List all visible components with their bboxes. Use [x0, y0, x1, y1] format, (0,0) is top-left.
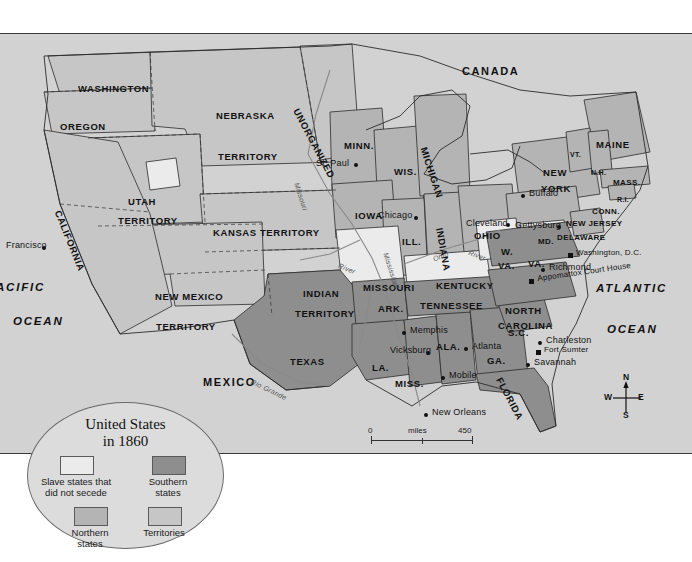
- city-label: Francisco: [6, 241, 47, 250]
- ocean-label: ATLANTIC: [596, 283, 667, 295]
- state-label: OREGON: [60, 122, 106, 132]
- map-geometry: [0, 34, 692, 453]
- state-label: MISSOURI: [363, 283, 415, 293]
- state-label: ARK.: [378, 304, 404, 314]
- state-label: W.: [501, 247, 513, 257]
- compass-arrows-icon: [604, 372, 650, 422]
- state-label: MISS.: [395, 379, 424, 389]
- city-label: Gettysburg: [515, 221, 561, 230]
- city-marker: [464, 347, 468, 351]
- state-label: DELAWARE: [557, 234, 606, 242]
- state-label: TERRITORY: [218, 152, 278, 162]
- legend-label-southern-states: Southern states: [120, 477, 216, 499]
- state-label: OHIO: [474, 231, 501, 241]
- city-marker: [424, 413, 428, 417]
- battle-site-marker: [529, 279, 534, 284]
- legend-label-slave-states: Slave states that did not secede: [28, 477, 124, 499]
- state-label: TENNESSEE: [420, 301, 483, 311]
- city-marker: [441, 376, 445, 380]
- legend-label-territories: Territories: [116, 528, 212, 539]
- state-label: TERRITORY: [118, 216, 178, 226]
- state-label: MASS.: [613, 179, 640, 187]
- city-label: Memphis: [410, 326, 448, 335]
- battle-site-marker: [568, 253, 573, 258]
- city-marker: [541, 268, 545, 272]
- state-label: NEW: [543, 168, 567, 178]
- state-label: UTAH: [128, 197, 156, 207]
- scale-km-max: 570: [460, 452, 473, 454]
- city-marker: [526, 363, 530, 367]
- state-label: KENTUCKY: [436, 281, 494, 291]
- city-marker: [414, 216, 418, 220]
- city-label: Mobile: [449, 371, 477, 380]
- scale-km-min: 0: [382, 452, 386, 454]
- legend-title-line2: in 1860: [28, 433, 223, 450]
- city-label: Savannah: [534, 358, 576, 367]
- state-label: VA.: [498, 261, 515, 271]
- city-marker: [521, 194, 525, 198]
- city-marker: [402, 331, 406, 335]
- state-label: VT.: [570, 151, 581, 158]
- state-label: GA.: [487, 356, 506, 366]
- legend-title: United States in 1860: [28, 416, 223, 450]
- state-label: MAINE: [596, 140, 630, 150]
- legend-title-line1: United States: [28, 416, 223, 433]
- city-label: Fort Sumter: [544, 346, 588, 354]
- city-label: Washington, D.C.: [576, 249, 642, 257]
- scale-miles-max: 450: [458, 426, 471, 435]
- city-label: Charleston: [546, 336, 592, 345]
- state-label: MD.: [538, 238, 554, 246]
- city-label: Atlanta: [472, 342, 501, 351]
- city-label: Cleveland: [466, 219, 508, 228]
- city-label: St. Paul: [316, 159, 349, 168]
- country-label: CANADA: [462, 66, 519, 77]
- scale-km-label: kilometers: [406, 452, 442, 454]
- country-label: MEXICO: [203, 377, 256, 388]
- legend-swatch-territories: [148, 507, 182, 526]
- compass-rose: N W E S: [604, 372, 650, 422]
- city-marker: [354, 163, 358, 167]
- state-label: MINN.: [344, 141, 374, 151]
- state-label: CONN.: [592, 208, 620, 216]
- state-label: TEXAS: [290, 357, 325, 367]
- legend-swatch-slave-states: [60, 456, 94, 475]
- state-label: CAROLINA: [498, 321, 553, 331]
- state-label: N.H.: [591, 169, 606, 176]
- city-label: Vicksburg: [390, 346, 431, 355]
- city-label: Buffalo: [529, 189, 558, 198]
- state-label: TERRITORY: [295, 309, 355, 319]
- ocean-label: ACIFIC: [0, 282, 45, 294]
- city-marker: [538, 341, 542, 345]
- legend-swatch-southern-states: [152, 456, 186, 475]
- map-screenshot: CANADA MEXICO ACIFIC OCEAN ATLANTIC OCEA…: [0, 0, 692, 562]
- state-label: WIS.: [394, 167, 417, 177]
- state-label: LA.: [372, 363, 389, 373]
- ocean-label: OCEAN: [13, 316, 64, 328]
- scale-miles-min: 0: [368, 426, 372, 435]
- map-canvas: CANADA MEXICO ACIFIC OCEAN ATLANTIC OCEA…: [0, 33, 692, 454]
- state-label: ALA.: [436, 342, 461, 352]
- state-label: NORTH: [505, 306, 542, 316]
- state-label: NEW JERSEY: [566, 220, 622, 228]
- state-label: NEBRASKA: [216, 111, 275, 121]
- state-label: KANSAS TERRITORY: [213, 228, 320, 238]
- scale-miles-label: miles: [408, 426, 427, 435]
- map-legend: United States in 1860 Slave states that …: [27, 402, 224, 549]
- state-label: WASHINGTON: [78, 84, 149, 94]
- state-label: ILL.: [402, 237, 421, 247]
- city-label: Chicago: [378, 211, 412, 220]
- state-label: NEW MEXICO: [155, 292, 223, 302]
- ocean-label: OCEAN: [607, 324, 658, 336]
- legend-swatch-northern-states: [74, 507, 108, 526]
- state-label: TERRITORY: [156, 322, 216, 332]
- state-label: INDIAN: [303, 289, 339, 299]
- state-label: R.I.: [617, 196, 629, 203]
- city-label: New Orleans: [432, 408, 486, 417]
- battle-site-marker: [536, 350, 541, 355]
